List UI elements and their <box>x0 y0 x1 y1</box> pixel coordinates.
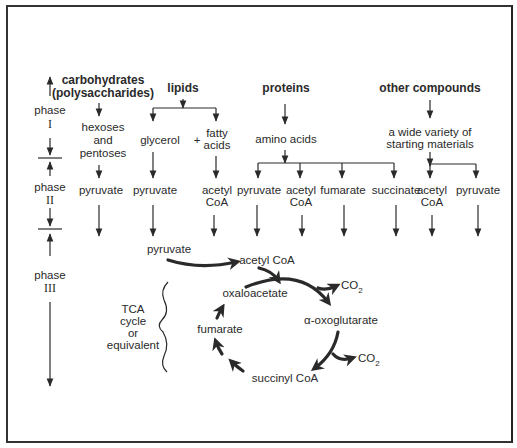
co2-label-1: CO2 <box>341 279 363 295</box>
phase3-acetylcoa-label: acetyl CoA <box>239 254 295 266</box>
proteins-heading: proteins <box>262 81 310 95</box>
amino-fumarate-label: fumarate <box>320 184 365 196</box>
source-headings: carbohydrates (polysaccharides) lipids p… <box>52 73 481 100</box>
carbohydrates-heading: carbohydrates <box>62 73 145 87</box>
fumarate-to-oxaloacetate-arrow-icon <box>217 308 222 318</box>
amino-acids-label: amino acids <box>255 133 317 145</box>
and-label: and <box>93 134 112 146</box>
lipids-heading: lipids <box>167 81 199 95</box>
tca-label: TCA <box>122 303 145 315</box>
co2-label-2: CO2 <box>358 352 380 368</box>
brace-icon <box>159 282 168 372</box>
other-acetyl-label: acetyl <box>417 184 447 196</box>
or-label: or <box>128 327 138 339</box>
glycerol-label: glycerol <box>140 134 180 146</box>
amino-succinate-label: succinate <box>372 184 421 196</box>
other-pyruvate-label: pyruvate <box>456 184 500 196</box>
fumarate-label: fumarate <box>197 323 242 335</box>
other-coa-label: CoA <box>421 196 444 208</box>
phase2-to-phase3-arrows <box>99 205 478 236</box>
phase1-numeral: I <box>48 117 52 131</box>
phase1-label: phase <box>34 104 65 116</box>
cycle-label: cycle <box>120 315 146 327</box>
co2-branch-arrow-icon <box>318 286 336 289</box>
fatty-coa-label: CoA <box>206 196 229 208</box>
phase2-numeral: II <box>46 193 54 207</box>
plus-sign: + <box>194 134 201 146</box>
amino-acetyl-label: acetyl <box>286 184 316 196</box>
amino-coa-label: CoA <box>290 196 313 208</box>
fatty-label: fatty <box>206 127 228 139</box>
phase1-flow: hexoses and pentoses glycerol + fatty ac… <box>80 99 474 159</box>
polysaccharides-heading: (polysaccharides) <box>52 86 154 100</box>
succinylcoa-label: succinyl CoA <box>252 372 319 384</box>
succinylcoa-to-fumarate-arrow-icon <box>232 362 243 371</box>
wide-variety-label: a wide variety of <box>388 126 472 138</box>
phase1-to-phase2-arrows <box>99 150 476 178</box>
tca-cycle: pyruvate acetyl CoA CO2 oxaloacetate α-o… <box>107 243 380 384</box>
fatty-acetyl-label: acetyl <box>202 184 232 196</box>
starting-materials-label: starting materials <box>386 138 474 150</box>
carb-pyruvate-label: pyruvate <box>79 184 123 196</box>
glycerol-pyruvate-label: pyruvate <box>133 184 177 196</box>
phase3-numeral: III <box>44 281 56 295</box>
equivalent-label: equivalent <box>107 339 160 351</box>
pyruvate-to-acetylcoa-arrow-icon <box>168 260 236 266</box>
phase3-pyruvate-label: pyruvate <box>147 243 191 255</box>
phase2-products: pyruvate pyruvate acetyl CoA pyruvate ac… <box>79 184 500 208</box>
co2-branch-arrow-icon <box>333 354 352 359</box>
metabolism-phases-diagram: phase I phase II phase III carbohydrates… <box>0 0 517 448</box>
alpha-oxoglutarate-label: α-oxoglutarate <box>304 314 378 326</box>
oxaloacetate-label: oxaloacetate <box>222 287 287 299</box>
fumarate-progress-arrow-icon <box>216 342 222 354</box>
amino-pyruvate-label: pyruvate <box>237 184 281 196</box>
phase2-label: phase <box>34 181 65 193</box>
phase-axis: phase I phase II phase III <box>34 77 65 386</box>
pentoses-label: pentoses <box>80 147 127 159</box>
hexoses-label: hexoses <box>82 121 125 133</box>
acids-label: acids <box>204 139 231 151</box>
other-compounds-heading: other compounds <box>379 81 481 95</box>
phase3-label: phase <box>34 269 65 281</box>
arc-to-succinylcoa-arrow-icon <box>315 332 338 368</box>
